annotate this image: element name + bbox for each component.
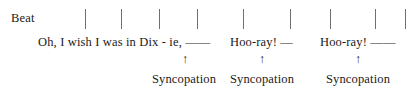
syncopation-label: Syncopation [230, 72, 294, 86]
beat-tick [330, 9, 331, 29]
beat-tick [243, 9, 244, 29]
beat-tick [121, 9, 122, 29]
up-arrow-icon: ↑ [255, 53, 269, 65]
beat-tick [197, 9, 198, 29]
syncopation-label: Syncopation [152, 72, 216, 86]
syncopation-label: Syncopation [326, 72, 390, 86]
beat-tick [85, 9, 86, 29]
beat-tick [159, 9, 160, 29]
beat-tick [405, 9, 406, 29]
lyric-text: Hoo-ray! —— [320, 35, 396, 50]
up-arrow-icon: ↑ [351, 53, 365, 65]
up-arrow-icon: ↑ [178, 53, 192, 65]
lyric-text: Hoo-ray! — [230, 35, 293, 50]
syncopation-diagram: Beat Oh, I wish I was in Dix - ie, ——Hoo… [0, 0, 408, 92]
beat-tick [375, 9, 376, 29]
beat-tick [290, 9, 291, 29]
lyric-text: Oh, I wish I was in Dix - ie, —— [38, 35, 211, 50]
beat-row-label: Beat [11, 11, 35, 25]
